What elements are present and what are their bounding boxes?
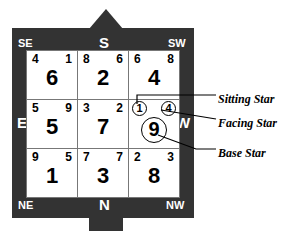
direction-label-sw: SW — [168, 38, 186, 49]
sitting-star-value: 8 — [83, 53, 90, 65]
sitting-star-value: 1 — [132, 101, 147, 116]
annotation-facing-star: Facing Star — [218, 117, 277, 129]
base-star-value: 7 — [78, 116, 128, 138]
base-star-value: 5 — [27, 116, 77, 138]
star-cell: 595 — [27, 100, 77, 148]
star-cell: 951 — [27, 149, 77, 197]
star-cell: 327 — [78, 100, 128, 148]
star-grid: 416862684595327149951773238 — [26, 50, 180, 198]
facing-star-value: 3 — [167, 151, 174, 163]
north-pointer-arrow-icon — [89, 9, 123, 29]
facing-star-value: 9 — [65, 102, 72, 114]
star-cell: 684 — [129, 51, 179, 99]
sitting-star-value: 3 — [83, 102, 90, 114]
sitting-star-value: 9 — [32, 151, 39, 163]
base-star-value: 8 — [129, 165, 179, 187]
sitting-star-value: 4 — [32, 53, 39, 65]
sitting-star-value: 7 — [83, 151, 90, 163]
facing-star-value: 8 — [167, 53, 174, 65]
annotation-sitting-star: Sitting Star — [218, 93, 274, 105]
facing-star-value: 7 — [116, 151, 123, 163]
direction-label-nw: NW — [166, 200, 184, 211]
base-star-value: 3 — [78, 165, 128, 187]
base-star-value: 9 — [141, 117, 167, 143]
facing-star-value: 6 — [116, 53, 123, 65]
base-star-value: 2 — [78, 67, 128, 89]
facing-star-value: 1 — [65, 53, 72, 65]
star-cell: 416 — [27, 51, 77, 99]
base-star-value: 6 — [27, 67, 77, 89]
facing-star-value: 4 — [161, 101, 176, 116]
direction-label-n: N — [99, 197, 110, 212]
direction-label-se: SE — [18, 38, 33, 49]
annotation-base-star: Base Star — [218, 147, 266, 159]
base-star-value: 4 — [129, 67, 179, 89]
frame-bottom-tab — [89, 217, 123, 231]
star-cell: 862 — [78, 51, 128, 99]
star-cell: 773 — [78, 149, 128, 197]
sitting-star-value: 5 — [32, 102, 39, 114]
base-star-value: 1 — [27, 165, 77, 187]
flying-star-chart-figure: SE S SW E W NE N NW 41686268459532714995… — [0, 0, 289, 246]
facing-star-value: 2 — [116, 102, 123, 114]
star-cell: 238 — [129, 149, 179, 197]
sitting-star-value: 2 — [134, 151, 141, 163]
facing-star-value: 5 — [65, 151, 72, 163]
direction-label-ne: NE — [18, 200, 33, 211]
sitting-star-value: 6 — [134, 53, 141, 65]
star-cell: 149 — [129, 100, 179, 148]
direction-label-s: S — [99, 35, 109, 50]
